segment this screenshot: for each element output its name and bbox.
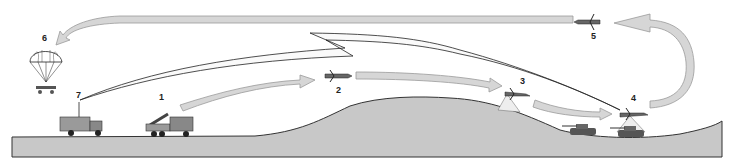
arrow-1-2 <box>180 75 315 111</box>
mission-diagram <box>0 0 742 165</box>
label-2: 2 <box>336 85 341 95</box>
label-6: 6 <box>42 33 47 43</box>
label-7: 7 <box>76 90 81 100</box>
label-3: 3 <box>520 76 525 86</box>
arrow-3-4 <box>533 100 612 120</box>
label-5: 5 <box>591 31 596 41</box>
control-station-truck <box>60 102 102 136</box>
drone-icon <box>325 70 352 82</box>
launcher-truck <box>146 114 193 137</box>
terrain <box>12 97 722 157</box>
return-arrow <box>56 16 573 45</box>
parachute-recovery <box>30 50 62 94</box>
label-1: 1 <box>159 92 164 102</box>
loop-arrow <box>614 14 694 108</box>
drone-returning <box>574 14 600 30</box>
label-4: 4 <box>631 93 636 103</box>
arrow-2-3 <box>356 72 502 92</box>
drone-surveying <box>498 88 530 112</box>
